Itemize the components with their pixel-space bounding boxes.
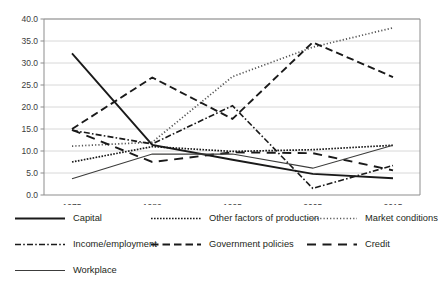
x-tick-label: 1995 — [223, 202, 242, 205]
y-tick-label: 10.0 — [21, 146, 38, 156]
series-line-market-conditions — [72, 28, 393, 146]
legend-label-market-conditions: Market conditions — [365, 214, 438, 223]
legend-label-workplace: Workplace — [73, 266, 117, 275]
legend-label-government-policies: Government policies — [209, 240, 294, 249]
x-tick-label: 1982 — [143, 202, 162, 205]
y-tick-label: 20.0 — [21, 102, 38, 112]
y-tick-label: 0.0 — [26, 190, 38, 200]
legend-item-income-employment[interactable]: Income/employment — [14, 233, 157, 256]
data-series-group — [72, 28, 393, 189]
legend-item-other-factors-of-production[interactable]: Other factors of production — [150, 207, 319, 230]
y-tick-label: 5.0 — [26, 168, 38, 178]
legend-row: CapitalOther factors of productionMarket… — [0, 207, 433, 230]
legend-swatch-income-employment — [14, 239, 66, 250]
gridlines — [44, 19, 420, 195]
legend-item-market-conditions[interactable]: Market conditions — [306, 207, 438, 230]
x-tick-label: 2015 — [384, 202, 403, 205]
legend-swatch-other-factors-of-production — [150, 213, 202, 224]
line-chart-plot: 0.05.010.015.020.025.030.035.040.0 19751… — [0, 0, 433, 205]
x-tick-label: 1975 — [63, 202, 82, 205]
y-tick-label: 25.0 — [21, 80, 38, 90]
legend-item-credit[interactable]: Credit — [306, 233, 390, 256]
legend-row: Income/employmentGovernment policiesCred… — [0, 233, 433, 256]
legend-swatch-credit — [306, 239, 358, 250]
chart-legend: CapitalOther factors of productionMarket… — [0, 207, 433, 284]
legend-swatch-capital — [14, 213, 66, 224]
y-tick-label: 30.0 — [21, 58, 38, 68]
legend-item-workplace[interactable]: Workplace — [14, 259, 117, 282]
y-tick-label: 15.0 — [21, 124, 38, 134]
legend-label-other-factors-of-production: Other factors of production — [209, 214, 319, 223]
chart-svg: 0.05.010.015.020.025.030.035.040.0 19751… — [0, 0, 433, 205]
legend-item-government-policies[interactable]: Government policies — [150, 233, 294, 256]
legend-label-credit: Credit — [365, 240, 390, 249]
y-tick-label: 40.0 — [21, 14, 38, 24]
y-axis-tick-labels: 0.05.010.015.020.025.030.035.040.0 — [21, 14, 44, 200]
legend-swatch-government-policies — [150, 239, 202, 250]
legend-label-income-employment: Income/employment — [73, 240, 157, 249]
y-tick-label: 35.0 — [21, 36, 38, 46]
x-tick-label: 2005 — [303, 202, 322, 205]
legend-row: Workplace — [0, 259, 433, 282]
legend-item-capital[interactable]: Capital — [14, 207, 102, 230]
series-line-workplace — [72, 145, 393, 178]
x-axis-tick-labels: 19751982199520052015 — [63, 202, 403, 205]
legend-swatch-workplace — [14, 265, 66, 276]
series-line-government-policies — [72, 42, 393, 129]
legend-swatch-market-conditions — [306, 213, 358, 224]
legend-label-capital: Capital — [73, 214, 102, 223]
